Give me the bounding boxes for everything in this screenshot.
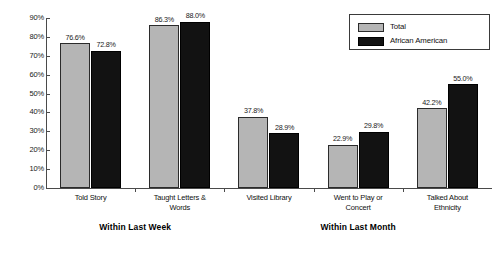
- x-axis-category-label: Went to Play orConcert: [314, 193, 403, 212]
- y-axis-tick-label: 90%: [0, 13, 44, 23]
- bar-african-american: [359, 132, 389, 188]
- bar-value-label: 72.8%: [87, 40, 125, 49]
- bar-african-american: [269, 133, 299, 188]
- x-axis-category-label-line: Concert: [314, 203, 403, 213]
- bar-value-label: 28.9%: [265, 123, 303, 132]
- x-axis-tick-mark: [135, 188, 136, 192]
- y-axis-tick-label: 20%: [0, 145, 44, 155]
- bar-chart: 0%10%20%30%40%50%60%70%80%90% 76.6%72.8%…: [0, 0, 502, 253]
- x-axis-category-label: Told Story: [46, 193, 135, 203]
- x-axis-category-label: Taught Letters &Words: [135, 193, 224, 212]
- x-axis-tick-mark: [314, 188, 315, 192]
- legend-label: Total: [390, 22, 406, 31]
- bar-total: [417, 108, 447, 188]
- bar-african-american: [180, 22, 210, 188]
- bar-total: [328, 145, 358, 188]
- bar-african-american: [91, 51, 121, 189]
- bar-value-label: 37.8%: [234, 106, 272, 115]
- bar-total: [149, 25, 179, 188]
- x-axis-category-label-line: Words: [135, 203, 224, 213]
- bar-total: [238, 117, 268, 188]
- x-axis-category-label-line: Visited Library: [224, 193, 313, 203]
- y-axis-tick-label: 0%: [0, 183, 44, 193]
- y-axis-tick-label: 50%: [0, 89, 44, 99]
- bar-african-american: [448, 84, 478, 188]
- legend-label: African American: [390, 36, 447, 45]
- bar-value-label: 42.2%: [413, 98, 451, 107]
- bar-value-label: 55.0%: [444, 74, 482, 83]
- y-axis-tick-label: 70%: [0, 51, 44, 61]
- x-axis-category-label-line: Taught Letters &: [135, 193, 224, 203]
- y-axis-tick-label: 60%: [0, 70, 44, 80]
- x-axis-category-label-line: Told Story: [46, 193, 135, 203]
- bar-total: [60, 43, 90, 188]
- bar-value-label: 29.8%: [355, 121, 393, 130]
- x-axis-category-label: Talked AboutEthnicity: [403, 193, 492, 212]
- x-axis-tick-mark: [224, 188, 225, 192]
- group-header: Within Last Week: [46, 222, 224, 232]
- x-axis-category-label: Visited Library: [224, 193, 313, 203]
- chart-legend: TotalAfrican American: [349, 14, 490, 50]
- bar-value-label: 22.9%: [324, 134, 362, 143]
- legend-swatch-total: [358, 23, 384, 32]
- x-axis-line: [46, 188, 492, 189]
- legend-swatch-aa: [358, 37, 384, 46]
- y-axis-tick-label: 80%: [0, 32, 44, 42]
- x-axis-category-label-line: Talked About: [403, 193, 492, 203]
- x-axis-tick-mark: [403, 188, 404, 192]
- x-axis-category-label-line: Ethnicity: [403, 203, 492, 213]
- bar-value-label: 88.0%: [176, 11, 214, 20]
- bar-group: 86.3%88.0%: [135, 18, 224, 188]
- x-axis-category-label-line: Went to Play or: [314, 193, 403, 203]
- bar-group: 37.8%28.9%: [224, 18, 313, 188]
- y-axis-tick-label: 10%: [0, 164, 44, 174]
- y-axis-tick-label: 40%: [0, 107, 44, 117]
- bar-group: 76.6%72.8%: [46, 18, 135, 188]
- y-axis-tick-label: 30%: [0, 126, 44, 136]
- group-header: Within Last Month: [224, 222, 492, 232]
